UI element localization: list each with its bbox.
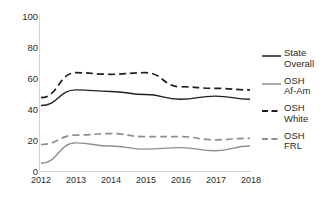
legend: State OverallOSH Af-AmOSH WhiteOSH FRL bbox=[262, 48, 328, 158]
legend-item-3[interactable]: OSH White bbox=[262, 103, 328, 124]
legend-item-label: OSH White bbox=[284, 103, 308, 124]
legend-item-label: State Overall bbox=[284, 48, 314, 69]
legend-item-4[interactable]: OSH FRL bbox=[262, 131, 328, 152]
series-line-state-overall bbox=[41, 90, 250, 106]
legend-item-1[interactable]: State Overall bbox=[262, 48, 328, 69]
series-lines bbox=[41, 73, 250, 163]
legend-line-swatch-icon bbox=[262, 51, 281, 61]
legend-line-swatch-icon bbox=[262, 79, 281, 89]
legend-line-swatch-icon bbox=[262, 134, 281, 144]
legend-item-label: OSH FRL bbox=[284, 131, 305, 152]
legend-item-2[interactable]: OSH Af-Am bbox=[262, 76, 328, 97]
legend-item-label: OSH Af-Am bbox=[284, 76, 310, 97]
legend-line-swatch-icon bbox=[262, 106, 281, 116]
line-chart: 100 80 60 40 20 0 2012 2013 2014 2015 20… bbox=[0, 0, 329, 197]
series-line-osh-af-am bbox=[41, 143, 250, 163]
